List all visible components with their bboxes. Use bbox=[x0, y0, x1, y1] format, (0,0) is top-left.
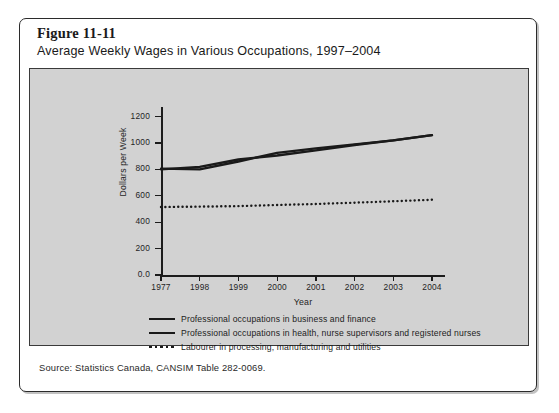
figure-number: Figure 11-11 bbox=[37, 25, 536, 42]
legend-item[interactable]: Professional occupations in business and… bbox=[149, 312, 519, 325]
legend-label: Professional occupations in health, nurs… bbox=[181, 328, 481, 338]
legend-label: Professional occupations in business and… bbox=[181, 314, 376, 324]
chart-panel: 0.020040060080010001200 1977199819992000… bbox=[29, 68, 529, 346]
chart-legend: Professional occupations in business and… bbox=[149, 312, 519, 354]
plot-area: 0.020040060080010001200 1977199819992000… bbox=[30, 69, 528, 345]
source-note: Source: Statistics Canada, CANSIM Table … bbox=[39, 362, 536, 373]
figure-footer: Source: Statistics Canada, CANSIM Table … bbox=[20, 349, 536, 391]
series-lines bbox=[30, 69, 530, 347]
legend-swatch-solid-icon bbox=[149, 314, 175, 324]
figure-card: Figure 11-11 Average Weekly Wages in Var… bbox=[19, 18, 537, 392]
legend-item[interactable]: Professional occupations in health, nurs… bbox=[149, 326, 519, 339]
figure-title: Average Weekly Wages in Various Occupati… bbox=[37, 43, 536, 60]
series-line-2 bbox=[161, 135, 432, 169]
series-line-3 bbox=[161, 200, 432, 207]
legend-swatch-solid-icon bbox=[149, 328, 175, 338]
figure-header: Figure 11-11 Average Weekly Wages in Var… bbox=[20, 19, 536, 68]
